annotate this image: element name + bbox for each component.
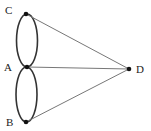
edge-c-a-ellipse	[17, 14, 38, 67]
edge-a-b-ellipse	[16, 67, 37, 122]
graph-diagram: C A B D	[0, 0, 151, 131]
node-d	[127, 67, 132, 72]
node-c	[24, 12, 29, 17]
label-a: A	[4, 61, 12, 73]
label-b: B	[6, 116, 13, 128]
node-b	[24, 120, 29, 125]
edge-c-d	[26, 14, 129, 69]
label-c: C	[5, 4, 12, 16]
edge-b-d	[26, 69, 129, 122]
edge-a-d	[27, 67, 129, 69]
label-d: D	[136, 63, 144, 75]
node-a	[25, 65, 30, 70]
